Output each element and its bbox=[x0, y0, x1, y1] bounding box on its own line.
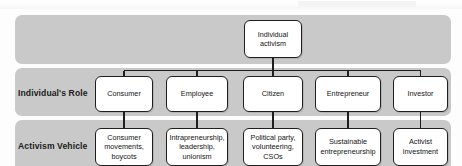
node-vehicle-investor[interactable]: Activist investment bbox=[393, 128, 448, 166]
node-role-entrepreneur[interactable]: Entrepreneur bbox=[315, 76, 381, 112]
node-role-label: Citizen bbox=[262, 89, 284, 99]
node-role-investor[interactable]: Investor bbox=[393, 76, 448, 112]
node-vehicle-citizen[interactable]: Political party, volunteering, CSOs bbox=[243, 128, 303, 166]
node-role-label: Investor bbox=[408, 89, 434, 99]
node-root-individual-activism[interactable]: Individual activism bbox=[244, 20, 302, 58]
node-role-citizen[interactable]: Citizen bbox=[243, 76, 303, 112]
node-role-label: Entrepreneur bbox=[327, 89, 370, 99]
node-role-employee[interactable]: Employee bbox=[166, 76, 228, 112]
node-role-consumer[interactable]: Consumer bbox=[95, 76, 153, 112]
row-label-individuals-role: Individual's Role bbox=[18, 88, 88, 98]
node-vehicle-employee[interactable]: Intrapreneurship, leadership, unionism bbox=[166, 128, 228, 166]
node-vehicle-label: Intrapreneurship, leadership, unionism bbox=[169, 133, 224, 162]
node-vehicle-entrepreneur[interactable]: Sustainable entrepreneurship bbox=[315, 128, 381, 166]
org-chart-diagram: Individual activism Individual's Role Ac… bbox=[0, 0, 462, 166]
node-role-label: Consumer bbox=[107, 89, 141, 99]
row-label-activism-vehicle: Activism Vehicle bbox=[18, 141, 87, 151]
node-vehicle-label: Consumer movements, boycots bbox=[99, 133, 149, 162]
node-vehicle-consumer[interactable]: Consumer movements, boycots bbox=[95, 128, 153, 166]
node-vehicle-label: Political party, volunteering, CSOs bbox=[247, 133, 299, 162]
node-vehicle-label: Activist investment bbox=[397, 137, 444, 156]
node-vehicle-label: Sustainable entrepreneurship bbox=[319, 137, 377, 156]
node-role-label: Employee bbox=[181, 89, 213, 99]
node-root-label: Individual activism bbox=[248, 30, 298, 49]
